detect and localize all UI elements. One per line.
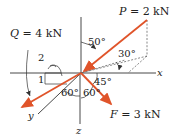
slope-rise-label: 1 [38, 74, 44, 85]
angle-60-left-label: 60° [61, 87, 79, 98]
angle-60-right-label: 60° [83, 87, 101, 98]
f-force-label: F = 3 kN [109, 108, 161, 121]
z-axis-label: z [75, 125, 82, 136]
y-axis-label: y [27, 110, 34, 121]
angle-45-label: 45° [94, 76, 112, 87]
force-diagram: P = 2 kN Q = 4 kN F = 3 kN x y z 50° 30°… [0, 0, 174, 139]
angle-30-label: 30° [118, 48, 136, 59]
q-force-label: Q = 4 kN [10, 27, 62, 40]
x-axis-label: x [157, 67, 163, 78]
slope-run-label: 2 [38, 52, 44, 63]
angle-50-label: 50° [88, 36, 106, 47]
p-force-label: P = 2 kN [118, 5, 170, 18]
